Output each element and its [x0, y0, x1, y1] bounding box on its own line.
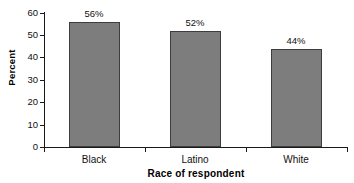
bar-white [271, 49, 322, 147]
y-axis-title: Percent [6, 33, 17, 103]
bar-label-white: 44% [266, 35, 326, 46]
y-tick-40 [40, 57, 45, 58]
y-tick-10 [40, 125, 45, 126]
x-tick-boundary-3 [347, 147, 348, 152]
bar-black [69, 22, 120, 147]
y-tick-50 [40, 35, 45, 36]
y-tick-label-10: 10 [8, 120, 38, 130]
bar-label-latino: 52% [165, 17, 225, 28]
bar-label-black: 56% [64, 8, 124, 19]
x-tick-boundary-0 [44, 147, 45, 152]
y-tick-20 [40, 102, 45, 103]
bar-chart: 0 10 20 30 40 50 60 56% 52% 44% Black La… [0, 0, 354, 183]
y-tick-60 [40, 13, 45, 14]
bar-latino [170, 31, 221, 147]
y-tick-30 [40, 80, 45, 81]
x-tick-label-black: Black [49, 154, 139, 166]
x-tick-label-latino: Latino [150, 154, 240, 166]
x-axis-line [44, 147, 348, 148]
y-tick-label-60: 60 [8, 8, 38, 18]
x-tick-label-white: White [251, 154, 341, 166]
x-axis-title: Race of respondent [44, 168, 348, 179]
x-tick-boundary-2 [246, 147, 247, 152]
y-tick-label-0: 0 [8, 142, 38, 152]
x-tick-boundary-1 [145, 147, 146, 152]
